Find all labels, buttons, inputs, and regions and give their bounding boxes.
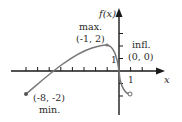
max-label: max.	[79, 21, 102, 32]
y-axis-label: f(x)	[98, 8, 116, 19]
function-graph: f(x) x 1 1 max. (-1, 2) infl. (0, 0) (-8…	[0, 0, 182, 122]
x-axis	[11, 67, 165, 75]
x-axis-label: x	[164, 74, 170, 85]
y-tick-label-1: 1	[111, 55, 117, 65]
max-coord-label: (-1, 2)	[76, 33, 105, 44]
max-point-dot	[105, 43, 108, 46]
infl-label: infl.	[132, 39, 151, 50]
infl-coord-label: (0, 0)	[128, 51, 154, 62]
y-axis-arrow-icon	[116, 8, 123, 17]
right-endpoint-open-dot	[128, 92, 132, 96]
min-coord-label: (-8, -2)	[33, 92, 65, 103]
min-endpoint-closed-dot	[24, 92, 28, 96]
min-label: min.	[39, 104, 60, 115]
x-tick-label-1: 1	[128, 75, 134, 85]
